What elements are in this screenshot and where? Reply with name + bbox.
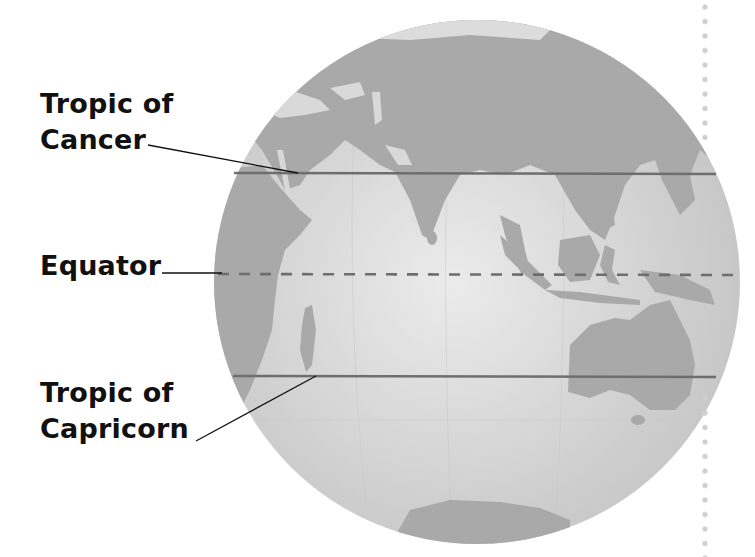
dotted-margin-line [701,0,709,557]
cancer-label-line1: Tropic of [40,88,173,120]
cancer-label-line2: Cancer [40,124,173,156]
tropic-of-cancer-label: Tropic of Cancer [40,88,173,156]
tropic-of-cancer-line [234,173,716,174]
tropic-of-capricorn-line [233,376,716,377]
globe-diagram: Tropic of Cancer Equator Tropic of Capri… [0,0,755,557]
capricorn-label-line1: Tropic of [40,377,189,409]
capricorn-label-line2: Capricorn [40,413,189,445]
equator-label: Equator [40,250,161,282]
tropic-of-capricorn-label: Tropic of Capricorn [40,377,189,445]
equator-label-text: Equator [40,250,161,282]
